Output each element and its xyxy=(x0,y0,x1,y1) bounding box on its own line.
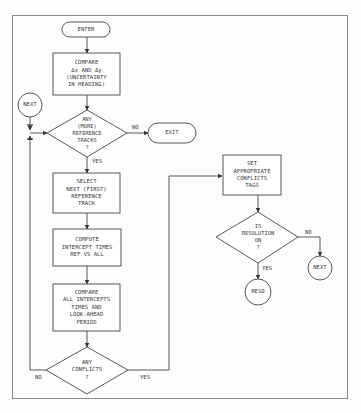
enter-terminal: ENTER xyxy=(62,22,110,37)
any-more-ref-line: TRACKS xyxy=(77,137,96,144)
select-next-node: SELECT NEXT (FIRST) REFERENCE TRACK xyxy=(53,173,120,213)
compare-heading-node: COMPARE Δẋ AND Δẏ (UNCERTAINTY IN HEADIN… xyxy=(53,53,120,95)
compute-intercept-node: COMPUTE INTERCEPT TIMES REF VS ALL xyxy=(53,229,121,266)
select-next-line: TRACK xyxy=(78,200,95,207)
any-conflicts-line: ANY xyxy=(82,359,92,366)
set-tags-line: TAGS xyxy=(245,182,258,189)
edge-label-conflicts-yes: YES xyxy=(140,374,150,380)
reso-label: RESO xyxy=(251,288,264,295)
compare-heading-line: (UNCERTAINTY xyxy=(66,74,106,81)
compare-heading-line: Δẋ AND Δẏ xyxy=(71,67,101,74)
select-next-line: REFERENCE xyxy=(71,193,101,200)
next-connector-left: NEXT xyxy=(18,93,42,117)
compare-intercepts-line: COMPARE xyxy=(75,289,99,296)
any-conflicts-line: ? xyxy=(85,374,88,381)
compare-intercepts-node: COMPARE ALL INTERCEPTS TIMES AND LOOK-AH… xyxy=(53,284,120,331)
any-conflicts-line: CONFLICTS xyxy=(72,366,102,373)
compare-intercepts-line: TIMES AND xyxy=(71,304,101,311)
compare-heading-line: COMPARE xyxy=(75,59,99,66)
next-right-label: NEXT xyxy=(313,264,326,271)
select-next-line: NEXT (FIRST) xyxy=(66,186,106,193)
edge-label-conflicts-no: NO xyxy=(35,374,42,380)
set-tags-line: CONFLICTS xyxy=(237,175,267,182)
next-left-label: NEXT xyxy=(23,101,36,108)
enter-label: ENTER xyxy=(78,26,95,33)
is-resolution-line: IS xyxy=(255,223,262,230)
next-connector-right: NEXT xyxy=(308,256,332,280)
any-more-ref-line: REFERENCE xyxy=(72,130,101,137)
compare-intercepts-line: LOOK-AHEAD xyxy=(70,311,104,318)
any-more-ref-node: ANY (MORE) REFERENCE TRACKS ? xyxy=(60,113,114,153)
is-resolution-node: IS RESOLUTION ON ? xyxy=(230,222,286,252)
compare-heading-line: IN HEADING) xyxy=(68,81,105,88)
is-resolution-line: ? xyxy=(256,244,259,251)
edge-label-more-ref-no: NO xyxy=(132,124,139,130)
compute-intercept-line: INTERCEPT TIMES xyxy=(62,244,113,251)
is-resolution-line: RESOLUTION xyxy=(242,230,274,237)
set-tags-line: APPROPRIATE xyxy=(233,168,270,175)
select-next-line: SELECT xyxy=(76,178,96,185)
exit-label: EXIT xyxy=(165,129,178,136)
set-tags-node: SET APPROPRIATE CONFLICTS TAGS xyxy=(223,155,281,195)
reso-connector: RESO xyxy=(245,279,271,305)
edge-label-more-ref-yes: YES xyxy=(92,158,102,164)
any-more-ref-line: ? xyxy=(85,144,88,151)
set-tags-line: SET xyxy=(247,160,257,167)
is-resolution-line: ON xyxy=(255,237,262,244)
compute-intercept-line: COMPUTE xyxy=(75,236,99,243)
any-more-ref-line: ANY xyxy=(82,116,92,123)
exit-terminal: EXIT xyxy=(148,123,196,143)
compare-intercepts-line: PERIOD xyxy=(76,319,96,326)
compute-intercept-line: REF VS ALL xyxy=(70,251,104,258)
edge-label-resolution-no: NO xyxy=(305,229,312,235)
flowchart-canvas: ENTER COMPARE Δẋ AND Δẏ (UNCERTAINTY IN … xyxy=(0,0,361,413)
compare-intercepts-line: ALL INTERCEPTS xyxy=(63,296,110,303)
edge-label-resolution-yes: YES xyxy=(262,265,272,271)
any-more-ref-line: (MORE) xyxy=(77,123,96,130)
any-conflicts-node: ANY CONFLICTS ? xyxy=(60,358,114,382)
